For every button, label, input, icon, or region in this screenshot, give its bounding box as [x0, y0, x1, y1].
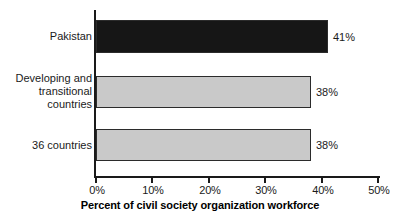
bar-36-countries [96, 129, 311, 161]
x-axis-tick-label-40: 40% [301, 184, 345, 196]
x-axis-tick-40 [321, 178, 323, 183]
category-label-36-countries: 36 countries [0, 139, 92, 152]
x-axis-tick-label-30: 30% [244, 184, 288, 196]
category-label-developing-and-transitional-countries: Developing and transitional countries [0, 72, 92, 111]
category-label-pakistan: Pakistan [0, 30, 92, 43]
x-axis-tick-label-50: 50% [357, 184, 400, 196]
x-axis-tick-50 [377, 178, 379, 183]
bar-value-36-countries: 38% [316, 139, 338, 151]
x-axis-tick-30 [264, 178, 266, 183]
x-axis-title: Percent of civil society organization wo… [0, 199, 400, 211]
x-axis-tick-10 [151, 178, 153, 183]
bar-value-developing-and-transitional-countries: 38% [316, 86, 338, 98]
x-axis-tick-label-10: 10% [131, 184, 175, 196]
x-axis-tick-label-0: 0% [75, 184, 119, 196]
x-axis-tick-20 [208, 178, 210, 183]
x-axis-line [94, 176, 380, 178]
x-axis-tick-0 [95, 178, 97, 183]
x-axis-tick-label-20: 20% [188, 184, 232, 196]
bar-pakistan [96, 20, 328, 53]
bar-chart: 0% 10% 20% 30% 40% 50% 41% Pakistan 38% … [0, 0, 400, 214]
bar-developing-and-transitional-countries [96, 76, 311, 108]
bar-value-pakistan: 41% [333, 31, 355, 43]
